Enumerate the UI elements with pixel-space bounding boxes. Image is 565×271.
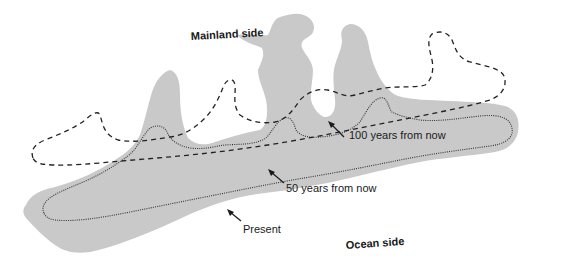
present-label: Present — [243, 223, 281, 235]
fifty-years-label: 50 years from now — [286, 182, 377, 194]
ocean-side-label: Ocean side — [345, 235, 404, 251]
arrow-present — [227, 209, 241, 221]
hundred-years-label: 100 years from now — [349, 129, 446, 141]
barrier-island-diagram: Mainland side Ocean side Present 50 year… — [0, 0, 565, 271]
